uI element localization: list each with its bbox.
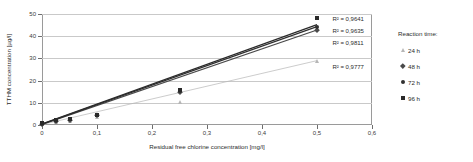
legend-item-24h[interactable]: 24 h: [398, 46, 470, 54]
data-point: [40, 121, 44, 125]
y-axis-tick-label: 0: [33, 122, 36, 128]
x-axis-tick: [372, 125, 373, 129]
trendlines: [42, 14, 372, 125]
y-axis-tick-label: 30: [29, 55, 36, 61]
circle-marker-icon: [398, 80, 408, 84]
trendline-96h: [42, 25, 317, 124]
trendline-48h: [42, 30, 317, 124]
legend-item-label: 96 h: [408, 95, 420, 102]
legend-item-72h[interactable]: 72 h: [398, 78, 470, 86]
legend-item-label: 24 h: [408, 47, 420, 54]
x-axis-tick-label: 0,6: [368, 130, 376, 136]
data-point: [68, 117, 72, 121]
x-axis-tick-label: 0,3: [203, 130, 211, 136]
legend-title: Reaction time:: [398, 30, 470, 37]
x-axis-tick: [207, 125, 208, 129]
x-axis-title: Residual free chlorine concentration [mg…: [42, 143, 372, 150]
legend-items: 24 h48 h72 h96 h: [398, 46, 470, 102]
x-axis-tick-label: 0: [40, 130, 43, 136]
x-axis-tick-label: 0,4: [258, 130, 266, 136]
x-axis-tick: [152, 125, 153, 129]
y-axis-tick-label: 20: [29, 78, 36, 84]
x-axis-tick-label: 0,1: [93, 130, 101, 136]
data-point: [315, 25, 319, 29]
data-point: [54, 118, 58, 122]
data-point: [315, 59, 319, 63]
r-squared-label: R² = 0,9777: [332, 64, 364, 71]
legend-item-label: 48 h: [408, 63, 420, 70]
y-axis-tick-label: 50: [29, 11, 36, 17]
legend-item-label: 72 h: [408, 79, 420, 86]
chart-figure: TTHM concentration [µg/l] 01020304050 00…: [0, 0, 473, 162]
y-axis-tick-label: 40: [29, 33, 36, 39]
r-squared-label: R² = 0,9641: [332, 16, 364, 23]
data-point: [178, 100, 182, 104]
legend-item-48h[interactable]: 48 h: [398, 62, 470, 70]
r-squared-label: R² = 0,9635: [332, 28, 364, 35]
triangle-marker-icon: [398, 48, 408, 52]
y-axis-title: TTHM concentration [µg/l]: [3, 14, 15, 125]
y-axis-tick-label: 10: [29, 100, 36, 106]
x-axis-tick: [317, 125, 318, 129]
legend: Reaction time: 24 h48 h72 h96 h: [398, 30, 470, 110]
diamond-marker-icon: [398, 64, 408, 68]
data-point: [178, 88, 182, 92]
x-axis-tick-label: 0,2: [148, 130, 156, 136]
x-axis-tick-label: 0,5: [313, 130, 321, 136]
square-marker-icon: [398, 96, 408, 100]
data-point: [315, 16, 319, 20]
legend-item-96h[interactable]: 96 h: [398, 94, 470, 102]
x-axis-tick: [97, 125, 98, 129]
r-squared-label: R² = 0,9811: [332, 40, 363, 47]
x-axis-tick: [262, 125, 263, 129]
plot-area: 01020304050 00,10,20,30,40,50,6 R² = 0,9…: [42, 14, 372, 125]
data-point: [95, 113, 99, 117]
